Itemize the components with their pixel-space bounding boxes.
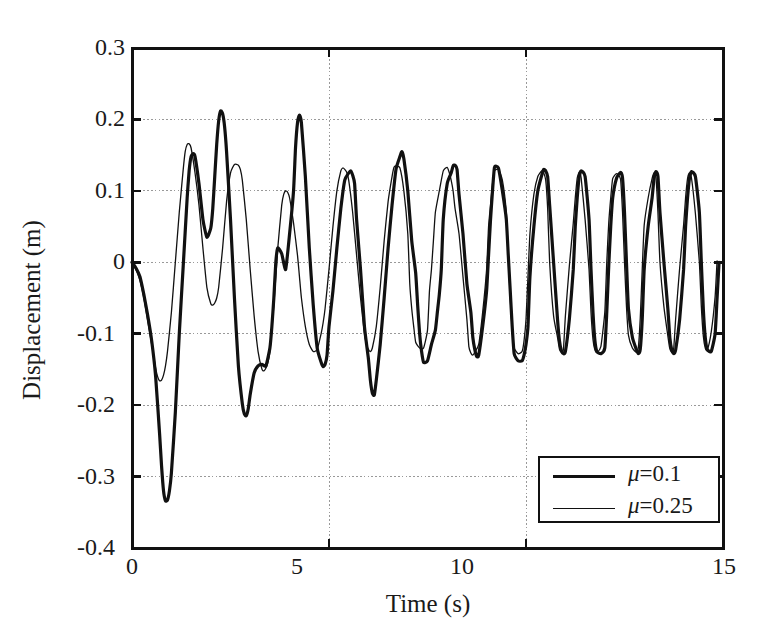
y-tick-label-4: -0.1 [45,320,115,347]
displacement-time-chart [0,0,768,633]
mu-symbol-1: μ [628,493,640,518]
x-tick-label-0: 0 [102,553,162,580]
y-tick-label-1: 0.2 [55,105,125,132]
y-tick-label-6: -0.3 [45,463,115,490]
x-tick-label-3: 15 [694,553,754,580]
legend-swatch-thin-line [553,508,615,509]
mu-symbol-0: μ [628,461,640,486]
y-tick-label-5: -0.2 [45,391,115,418]
legend-label-mu-0-25: μ=0.25 [628,493,693,519]
chart-page: 0.3 0.2 0.1 0 -0.1 -0.2 -0.3 -0.4 0 5 10… [0,0,768,633]
y-tick-label-3: 0 [55,248,125,275]
legend-entry-mu-0-25: μ=0.25 [540,491,718,524]
y-tick-label-2: 0.1 [55,177,125,204]
legend-value-0: =0.1 [640,461,682,486]
legend: μ=0.1 μ=0.25 [538,456,720,523]
legend-label-mu-0-1: μ=0.1 [628,461,681,487]
x-tick-label-2: 10 [432,553,492,580]
y-tick-label-0: 0.3 [55,34,125,61]
x-axis-label: Time (s) [263,590,593,618]
legend-entry-mu-0-1: μ=0.1 [540,459,718,492]
legend-value-1: =0.25 [640,493,693,518]
legend-swatch-thick-line [553,475,615,478]
plot-curves [132,111,719,501]
y-axis-label: Displacement (m) [18,100,52,520]
x-tick-label-1: 5 [267,553,327,580]
